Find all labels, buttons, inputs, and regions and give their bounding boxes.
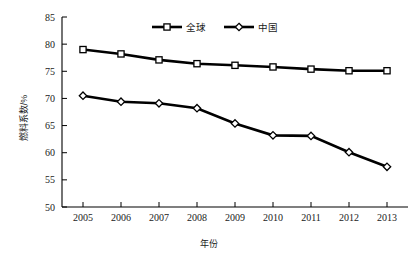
chart-legend: 全球中国 xyxy=(152,22,278,33)
y-tick-label: 55 xyxy=(45,174,55,185)
y-tick-label: 50 xyxy=(45,202,55,213)
x-tick-label: 2010 xyxy=(263,212,283,223)
x-axis-title: 年份 xyxy=(200,238,218,249)
x-axis-ticks: 200520062007200820092010201120122013 xyxy=(73,202,397,223)
data-point xyxy=(231,120,238,127)
legend-label: 全球 xyxy=(186,22,206,33)
series-line xyxy=(83,96,387,167)
data-series-2 xyxy=(79,92,390,171)
data-point xyxy=(193,105,200,112)
data-point xyxy=(383,163,390,170)
x-tick-label: 2005 xyxy=(73,212,93,223)
diamond-marker-icon xyxy=(235,23,242,30)
y-tick-label: 80 xyxy=(45,39,55,50)
y-axis-ticks: 5055606570758085 xyxy=(45,12,67,213)
legend-label: 中国 xyxy=(258,22,278,33)
data-point xyxy=(156,57,162,63)
series-layer xyxy=(79,46,390,170)
data-point xyxy=(270,64,276,70)
data-point xyxy=(345,148,352,155)
y-tick-label: 70 xyxy=(45,93,55,104)
data-point xyxy=(384,68,390,74)
data-point xyxy=(269,132,276,139)
data-point xyxy=(346,68,352,74)
square-marker-icon xyxy=(164,24,170,30)
y-tick-label: 75 xyxy=(45,66,55,77)
y-tick-label: 65 xyxy=(45,120,55,131)
x-tick-label: 2007 xyxy=(149,212,169,223)
data-point xyxy=(80,46,86,52)
x-tick-label: 2006 xyxy=(111,212,131,223)
line-chart: 燃料系数/% 年份 5055606570758085 2005200620072… xyxy=(0,0,419,262)
data-point xyxy=(232,62,238,68)
y-axis-title: 燃料系数/% xyxy=(18,95,29,142)
data-point xyxy=(307,132,314,139)
chart-container: 燃料系数/% 年份 5055606570758085 2005200620072… xyxy=(0,0,419,262)
data-point xyxy=(155,100,162,107)
x-tick-label: 2012 xyxy=(339,212,359,223)
data-point xyxy=(118,51,124,57)
x-tick-label: 2013 xyxy=(377,212,397,223)
legend-item-2[interactable]: 中国 xyxy=(224,22,278,33)
y-tick-label: 60 xyxy=(45,147,55,158)
x-tick-label: 2009 xyxy=(225,212,245,223)
data-point xyxy=(308,66,314,72)
data-point xyxy=(194,61,200,67)
legend-item-1[interactable]: 全球 xyxy=(152,22,206,33)
data-series-1 xyxy=(80,46,390,73)
data-point xyxy=(79,92,86,99)
x-tick-label: 2008 xyxy=(187,212,207,223)
data-point xyxy=(117,98,124,105)
x-tick-label: 2011 xyxy=(301,212,321,223)
y-tick-label: 85 xyxy=(45,12,55,23)
